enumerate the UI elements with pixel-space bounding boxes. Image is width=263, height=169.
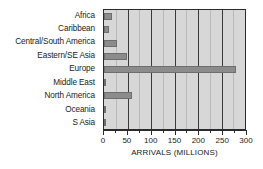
category-label: North America xyxy=(0,90,99,103)
bar xyxy=(104,119,106,126)
category-label: Caribbean xyxy=(0,22,99,35)
bar-row xyxy=(104,10,245,23)
bar-row xyxy=(104,116,245,129)
x-axis-tick-label: 50 xyxy=(122,135,131,146)
x-axis-tick-minor xyxy=(210,130,211,133)
x-axis-tick-minor xyxy=(186,130,187,133)
bar-row xyxy=(104,50,245,63)
bar-chart: Africa Caribbean Central/South America E… xyxy=(0,0,263,169)
category-label: Africa xyxy=(0,9,99,22)
category-label: Europe xyxy=(0,63,99,76)
x-axis-tick-label: 0 xyxy=(101,135,105,146)
plot-area xyxy=(103,9,246,130)
category-label: Central/South America xyxy=(0,36,99,49)
x-axis-tick-minor xyxy=(139,130,140,133)
x-axis-tick-label: 150 xyxy=(168,135,181,146)
bar xyxy=(104,106,106,113)
x-axis-tick-minor xyxy=(234,130,235,133)
bar xyxy=(104,79,106,86)
category-label: S Asia xyxy=(0,117,99,130)
category-label: Eastern/SE Asia xyxy=(0,49,99,62)
x-axis-title: ARRIVALS (MILLIONS) xyxy=(103,148,246,157)
bar xyxy=(104,92,132,99)
bar-row xyxy=(104,63,245,76)
bar-row xyxy=(104,23,245,36)
x-axis-tick-minor xyxy=(163,130,164,133)
bar xyxy=(104,40,117,47)
bar-row xyxy=(104,36,245,49)
category-axis-labels: Africa Caribbean Central/South America E… xyxy=(0,9,99,130)
bar-series xyxy=(104,10,245,129)
category-label: Oceania xyxy=(0,103,99,116)
x-axis-tick-labels: 050100150200250300 xyxy=(103,135,246,146)
x-axis-tick-label: 200 xyxy=(192,135,205,146)
bar-row xyxy=(104,103,245,116)
bar xyxy=(104,13,112,20)
x-axis-tick-label: 300 xyxy=(239,135,252,146)
bar xyxy=(104,66,236,73)
bar xyxy=(104,53,127,60)
bar-row xyxy=(104,76,245,89)
x-axis-tick-label: 100 xyxy=(144,135,157,146)
bar-row xyxy=(104,89,245,102)
bar xyxy=(104,26,109,33)
x-axis-tick-minor xyxy=(115,130,116,133)
x-axis-tick-label: 250 xyxy=(215,135,228,146)
category-label: Middle East xyxy=(0,76,99,89)
